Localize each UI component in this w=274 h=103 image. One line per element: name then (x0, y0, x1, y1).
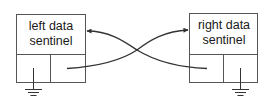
diagram-canvas: left data sentinel right data sentinel (0, 0, 274, 103)
right-node-label-line2: sentinel (202, 33, 245, 47)
left-node-label-line1: left data (29, 19, 74, 33)
left-sentinel-node: left data sentinel (17, 15, 86, 96)
left-node-label-line2: sentinel (29, 34, 72, 48)
left-ground-icon (25, 68, 42, 96)
right-node-label-line1: right data (198, 18, 250, 32)
right-ground-icon (232, 68, 249, 96)
sentinel-diagram: left data sentinel right data sentinel (0, 0, 274, 103)
right-sentinel-node: right data sentinel (190, 14, 258, 96)
